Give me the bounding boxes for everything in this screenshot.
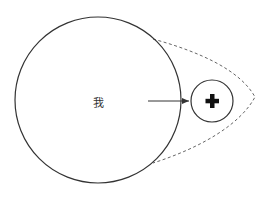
large-circle-label: 我: [93, 94, 104, 110]
diagram-canvas: [0, 0, 267, 198]
